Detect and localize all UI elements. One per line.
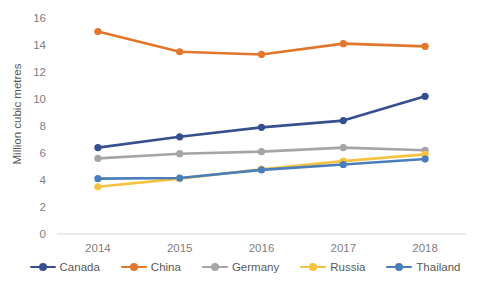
y-tick-label: 2 xyxy=(40,201,46,213)
legend-item-germany[interactable]: Germany xyxy=(202,261,279,273)
legend-item-thailand[interactable]: Thailand xyxy=(386,261,460,273)
legend-swatch-icon xyxy=(121,262,147,273)
legend-swatch-icon xyxy=(386,262,412,273)
data-point-china xyxy=(258,51,265,58)
legend-swatch-icon xyxy=(30,262,56,273)
y-tick-label: 6 xyxy=(40,147,46,159)
legend-swatch-icon xyxy=(202,262,228,273)
legend-label: Germany xyxy=(232,261,279,273)
data-point-canada xyxy=(94,144,101,151)
data-point-germany xyxy=(94,155,101,162)
legend-item-china[interactable]: China xyxy=(121,261,181,273)
x-tick-label: 2018 xyxy=(412,242,438,254)
y-tick-label: 10 xyxy=(33,93,46,105)
data-point-thailand xyxy=(176,174,183,181)
legend-label: Russia xyxy=(330,261,365,273)
chart-legend: CanadaChinaGermanyRussiaThailand xyxy=(0,261,490,273)
legend-label: China xyxy=(151,261,181,273)
data-point-canada xyxy=(422,93,429,100)
data-point-canada xyxy=(176,133,183,140)
data-point-germany xyxy=(258,148,265,155)
data-point-canada xyxy=(340,117,347,124)
data-point-china xyxy=(176,48,183,55)
y-tick-label: 12 xyxy=(33,66,46,78)
y-tick-label: 0 xyxy=(40,228,46,240)
legend-item-russia[interactable]: Russia xyxy=(300,261,365,273)
legend-label: Canada xyxy=(60,261,100,273)
y-tick-label: 8 xyxy=(40,120,46,132)
legend-item-canada[interactable]: Canada xyxy=(30,261,100,273)
data-point-germany xyxy=(176,150,183,157)
data-point-russia xyxy=(94,183,101,190)
data-point-china xyxy=(340,40,347,47)
legend-label: Thailand xyxy=(416,261,460,273)
x-tick-label: 2015 xyxy=(167,242,193,254)
y-tick-label: 4 xyxy=(40,174,47,186)
data-point-canada xyxy=(258,124,265,131)
x-tick-label: 2016 xyxy=(249,242,275,254)
series-line-canada xyxy=(98,96,425,147)
data-point-thailand xyxy=(94,175,101,182)
data-point-thailand xyxy=(340,161,347,168)
plot-area: 024681012141620142015201620172018 xyxy=(0,0,490,290)
x-tick-label: 2017 xyxy=(331,242,357,254)
data-point-germany xyxy=(340,144,347,151)
data-point-thailand xyxy=(258,166,265,173)
legend-swatch-icon xyxy=(300,262,326,273)
data-point-thailand xyxy=(422,155,429,162)
data-point-china xyxy=(94,28,101,35)
y-tick-label: 16 xyxy=(33,12,46,24)
data-point-china xyxy=(422,43,429,50)
x-tick-label: 2014 xyxy=(85,242,111,254)
line-chart: Million cubic metres 0246810121416201420… xyxy=(0,0,490,290)
y-tick-label: 14 xyxy=(33,39,46,51)
